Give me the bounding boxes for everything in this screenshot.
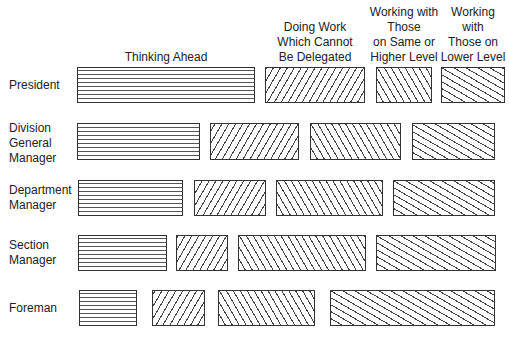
bar-section-manager-doing-work <box>176 235 228 271</box>
bar-president-same-higher <box>376 67 432 103</box>
row-label-president: President <box>9 78 60 93</box>
bar-section-manager-same-higher <box>238 235 366 271</box>
bar-president-lower-level <box>441 67 505 103</box>
bar-department-manager-doing-work <box>194 180 266 216</box>
row-label-section-manager: Section Manager <box>9 238 56 268</box>
bar-division-gm-same-higher <box>310 123 401 160</box>
row-label-division-general-manager: Division General Manager <box>9 121 56 166</box>
bar-foreman-doing-work <box>152 290 205 326</box>
bar-division-gm-doing-work <box>210 123 299 160</box>
bar-president-thinking-ahead <box>77 67 255 103</box>
bar-department-manager-lower-level <box>393 180 495 216</box>
header-same-or-higher-level: Working with Those on Same or Higher Lev… <box>366 5 442 65</box>
header-doing-work-not-delegated: Doing Work Which Cannot Be Delegated <box>262 20 368 65</box>
bar-president-doing-work <box>265 67 365 103</box>
bar-division-gm-lower-level <box>412 123 495 160</box>
header-thinking-ahead: Thinking Ahead <box>110 50 222 65</box>
bar-section-manager-lower-level <box>376 235 496 271</box>
row-label-foreman: Foreman <box>9 301 57 316</box>
bar-department-manager-thinking-ahead <box>78 180 183 216</box>
bar-foreman-thinking-ahead <box>79 290 137 326</box>
bar-department-manager-same-higher <box>276 180 383 216</box>
bar-section-manager-thinking-ahead <box>78 235 167 271</box>
bar-division-gm-thinking-ahead <box>77 123 200 160</box>
bar-foreman-lower-level <box>330 290 495 326</box>
header-lower-level: Working with Those on Lower Level <box>436 5 509 65</box>
row-label-department-manager: Department Manager <box>9 183 72 213</box>
bar-foreman-same-higher <box>218 290 315 326</box>
